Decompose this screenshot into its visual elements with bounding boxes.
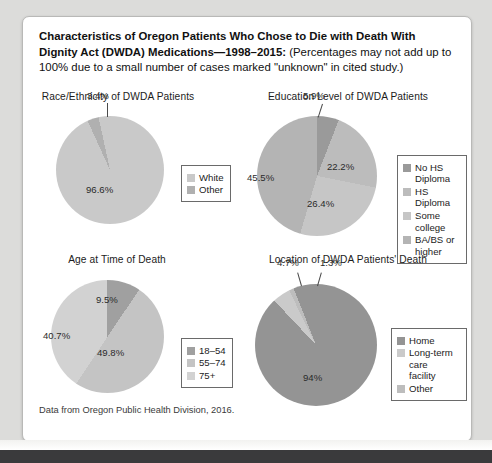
legend-swatch-icon [403,212,411,220]
legend-age-at-death[interactable]: 18–54 55–74 75+ [181,338,233,388]
legend-swatch-icon [403,188,411,196]
legend-education-level[interactable]: No HS Diploma HS Diploma Some college BA… [397,155,467,264]
slice-label-age-55-74: 49.8% [97,347,124,358]
legend-label: Other [409,383,433,394]
chart-title-location-of-death: Location of DWDA Patients' Death [245,254,451,265]
legend-label: White [199,172,224,183]
slice-label-loc-home: 94% [303,372,322,383]
legend-race-ethnicity[interactable]: White Other [181,165,231,202]
leader-line-race-other [107,103,108,117]
legend-label: Other [199,184,223,195]
chart-age-at-death: Age at Time of Death 9.5% 49.8% 40.7% 18… [31,254,243,404]
pie-education-level [257,116,377,236]
slice-label-edu-ba-bs: 45.5% [247,172,274,183]
slice-label-loc-ltc: 4.7% [277,257,299,268]
legend-label: 75+ [199,370,215,381]
legend-swatch-icon [187,174,195,182]
legend-swatch-icon [187,359,195,367]
infographic-card: Characteristics of Oregon Patients Who C… [22,16,472,442]
legend-item[interactable]: Some college [403,210,460,233]
legend-item[interactable]: 75+ [187,370,226,381]
chart-education-level: Education Level of DWDA Patients 5.9% 22… [251,91,467,246]
legend-label: Long-term care facility [409,347,460,381]
slice-label-loc-other: 1.3% [320,257,342,268]
legend-location-of-death[interactable]: Home Long-term care facility Other [391,328,467,401]
legend-label: HS Diploma [415,186,460,209]
slice-label-race-white: 96.6% [86,184,113,195]
legend-swatch-icon [187,372,195,380]
legend-swatch-icon [403,236,411,244]
legend-item[interactable]: Long-term care facility [397,347,460,381]
page-bottom-bar [0,450,492,463]
legend-item[interactable]: 55–74 [187,357,226,368]
leader-line-loc-ltc [297,272,302,286]
legend-swatch-icon [397,349,405,357]
page-title: Characteristics of Oregon Patients Who C… [39,29,457,76]
pie-race-ethnicity [56,116,164,224]
legend-item[interactable]: White [187,172,224,183]
slice-label-edu-no-hs: 5.9% [303,90,325,101]
slice-label-age-18-54: 9.5% [96,294,118,305]
chart-title-age-at-death: Age at Time of Death [27,254,207,265]
legend-item[interactable]: No HS Diploma [403,162,460,185]
slice-label-edu-hs: 22.2% [327,161,354,172]
legend-label: 18–54 [199,345,226,356]
slice-label-edu-some-college: 26.4% [307,198,334,209]
legend-label: Home [409,335,435,346]
chart-title-race-ethnicity: Race/Ethnicity of DWDA Patients [23,91,213,102]
legend-label: No HS Diploma [415,162,460,185]
legend-swatch-icon [397,385,405,393]
legend-swatch-icon [187,347,195,355]
legend-item[interactable]: Home [397,335,460,346]
page-canvas: Characteristics of Oregon Patients Who C… [0,0,492,463]
chart-location-of-death: Location of DWDA Patients' Death 4.7% 1.… [251,254,467,409]
legend-item[interactable]: HS Diploma [403,186,460,209]
slice-label-age-75plus: 40.7% [43,330,70,341]
chart-race-ethnicity: Race/Ethnicity of DWDA Patients 3.4% 96.… [31,91,243,241]
chart-title-education-level: Education Level of DWDA Patients [245,91,451,102]
legend-swatch-icon [187,186,195,194]
legend-swatch-icon [397,337,405,345]
slice-label-race-other: 3.4% [87,90,109,101]
legend-item[interactable]: 18–54 [187,345,226,356]
pie-location-of-death [255,284,377,406]
page-bottom-fade [0,440,492,450]
legend-item[interactable]: Other [397,383,460,394]
legend-label: 55–74 [199,357,226,368]
source-note: Data from Oregon Public Health Division,… [39,405,234,415]
legend-swatch-icon [403,164,411,172]
legend-label: Some college [415,210,460,233]
legend-item[interactable]: Other [187,184,224,195]
